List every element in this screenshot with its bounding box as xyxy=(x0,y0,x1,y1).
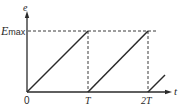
x-axis-arrow-icon xyxy=(165,90,172,94)
x-tick-t: T xyxy=(85,95,92,106)
ramp-1 xyxy=(27,31,88,92)
y-axis-label: e xyxy=(23,2,28,13)
sawtooth-diagram: e Emax 0 T 2T t xyxy=(0,0,181,108)
emax-label-sub: max xyxy=(8,27,26,37)
ramp-3 xyxy=(148,75,165,92)
x-axis-label: t xyxy=(174,85,178,97)
emax-label: Emax xyxy=(0,24,26,38)
origin-label: 0 xyxy=(24,95,30,106)
x-tick-2t: 2T xyxy=(141,95,153,106)
ramp-2 xyxy=(88,31,148,92)
